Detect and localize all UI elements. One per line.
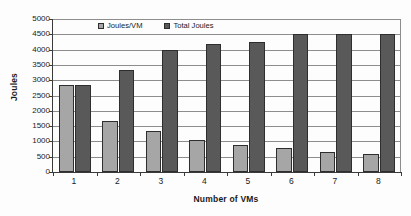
y-tickmark <box>49 126 53 127</box>
y-tickmark <box>49 157 53 158</box>
y-tickmark <box>49 65 53 66</box>
bar-total-joules-3 <box>162 50 178 172</box>
x-tick-label: 4 <box>202 176 207 186</box>
x-tick-label: 7 <box>332 176 337 186</box>
legend-swatch-icon <box>164 23 170 29</box>
bar-total-joules-5 <box>249 42 265 172</box>
bar-total-joules-6 <box>293 34 309 172</box>
y-tick-label: 1500 <box>32 122 50 130</box>
bar-joules-vm-4 <box>189 140 205 172</box>
x-tick-label: 3 <box>158 176 163 186</box>
bar-total-joules-8 <box>380 34 396 172</box>
y-tick-label: 1000 <box>32 137 50 145</box>
legend-label: Total Joules <box>173 21 213 30</box>
legend-item-total-joules: Total Joules <box>164 21 213 30</box>
plot-area <box>52 19 401 173</box>
x-tick-label: 2 <box>115 176 120 186</box>
y-tickmark <box>49 80 53 81</box>
bar-total-joules-7 <box>336 34 352 172</box>
y-tick-label: 4000 <box>32 46 50 54</box>
legend-swatch-icon <box>98 23 104 29</box>
y-tick-label: 500 <box>37 153 50 161</box>
legend-label: Joules/VM <box>107 21 142 30</box>
x-tick-label: 5 <box>245 176 250 186</box>
bar-joules-vm-5 <box>233 145 249 172</box>
y-axis-title: Joules <box>9 57 19 117</box>
bar-total-joules-2 <box>119 70 135 172</box>
y-tick-label: 4500 <box>32 30 50 38</box>
y-tickmark <box>49 96 53 97</box>
x-tick-label: 6 <box>289 176 294 186</box>
y-tickmark <box>49 111 53 112</box>
plot-top-border <box>53 19 401 20</box>
y-tick-label: 5000 <box>32 15 50 23</box>
bar-joules-vm-8 <box>363 154 379 172</box>
x-axis-title: Number of VMs <box>52 194 400 204</box>
bar-total-joules-4 <box>206 44 222 172</box>
y-tickmark <box>49 34 53 35</box>
y-tickmark <box>49 19 53 20</box>
y-axis-tick-labels: 0500100015002000250030003500400045005000 <box>22 19 50 172</box>
bar-joules-vm-2 <box>102 121 118 172</box>
x-axis-tick-labels: 12345678 <box>52 176 400 190</box>
bar-joules-vm-1 <box>59 85 75 172</box>
y-tick-label: 3000 <box>32 76 50 84</box>
bar-total-joules-1 <box>75 85 91 172</box>
y-tick-label: 2000 <box>32 107 50 115</box>
x-tick-label: 8 <box>376 176 381 186</box>
x-tick-label: 1 <box>71 176 76 186</box>
y-tickmark <box>49 141 53 142</box>
y-tick-label: 3500 <box>32 61 50 69</box>
bar-joules-vm-3 <box>146 131 162 172</box>
bar-joules-vm-6 <box>276 148 292 172</box>
bar-joules-vm-7 <box>320 152 336 172</box>
x-tickmark <box>401 172 402 176</box>
legend-item-joules-vm: Joules/VM <box>98 21 142 30</box>
y-tick-label: 2500 <box>32 92 50 100</box>
y-tickmark <box>49 50 53 51</box>
bar-chart-figure: Joules 050010001500200025003000350040004… <box>0 0 411 216</box>
chart-legend: Joules/VMTotal Joules <box>98 21 214 30</box>
